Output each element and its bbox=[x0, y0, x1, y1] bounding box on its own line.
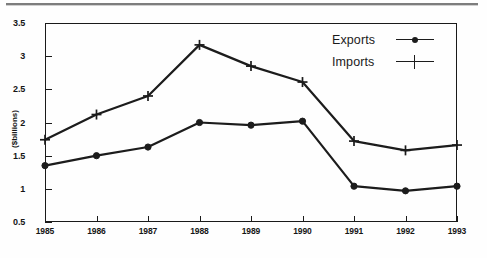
legend-marker-imports bbox=[396, 55, 434, 69]
x-axis-tick-label: 1990 bbox=[293, 226, 312, 236]
y-axis-tick-label: 3 bbox=[0, 51, 25, 61]
page-canvas: ($billions) 0.511.522.533.5 198519861987… bbox=[0, 0, 487, 258]
x-axis-tick bbox=[148, 216, 149, 222]
y-axis-tick-label: 1 bbox=[0, 184, 25, 194]
legend-item-exports: Exports bbox=[332, 32, 434, 47]
legend-item-imports: Imports bbox=[332, 54, 434, 69]
y-axis-tick bbox=[45, 23, 52, 24]
x-axis-tick-label: 1988 bbox=[190, 226, 209, 236]
x-axis-tick bbox=[354, 216, 355, 222]
y-axis-tick-label: 0.5 bbox=[0, 217, 25, 227]
y-axis-tick bbox=[45, 189, 52, 190]
x-axis-tick bbox=[303, 216, 304, 222]
legend-label-imports: Imports bbox=[332, 55, 388, 69]
x-axis-tick-label: 1989 bbox=[242, 226, 261, 236]
x-axis-tick-label: 1986 bbox=[87, 226, 106, 236]
y-axis-tick bbox=[45, 222, 52, 223]
x-axis-tick-label: 1987 bbox=[139, 226, 158, 236]
y-axis-tick-label: 1.5 bbox=[0, 151, 25, 161]
legend-label-exports: Exports bbox=[332, 33, 388, 47]
x-axis-tick-label: 1985 bbox=[36, 226, 55, 236]
y-axis-tick-label: 2 bbox=[0, 118, 25, 128]
chart-legend: Exports Imports bbox=[332, 32, 434, 69]
x-axis-tick bbox=[97, 216, 98, 222]
y-axis-tick-label: 3.5 bbox=[0, 18, 25, 28]
x-axis-tick bbox=[251, 216, 252, 222]
x-axis-tick-label: 1991 bbox=[345, 226, 364, 236]
y-axis-tick bbox=[45, 56, 52, 57]
x-axis-tick bbox=[406, 216, 407, 222]
y-axis-title: ($billions) bbox=[10, 110, 19, 148]
x-axis-tick-label: 1992 bbox=[396, 226, 415, 236]
y-axis-tick bbox=[45, 89, 52, 90]
x-axis-tick bbox=[45, 216, 46, 222]
x-axis-tick bbox=[457, 216, 458, 222]
line-chart: ($billions) 0.511.522.533.5 198519861987… bbox=[0, 0, 487, 258]
y-axis-tick bbox=[45, 123, 52, 124]
y-axis-tick-label: 2.5 bbox=[0, 84, 25, 94]
x-axis-tick bbox=[200, 216, 201, 222]
y-axis-tick bbox=[45, 156, 52, 157]
legend-marker-exports bbox=[396, 33, 434, 47]
x-axis-tick-label: 1993 bbox=[448, 226, 467, 236]
